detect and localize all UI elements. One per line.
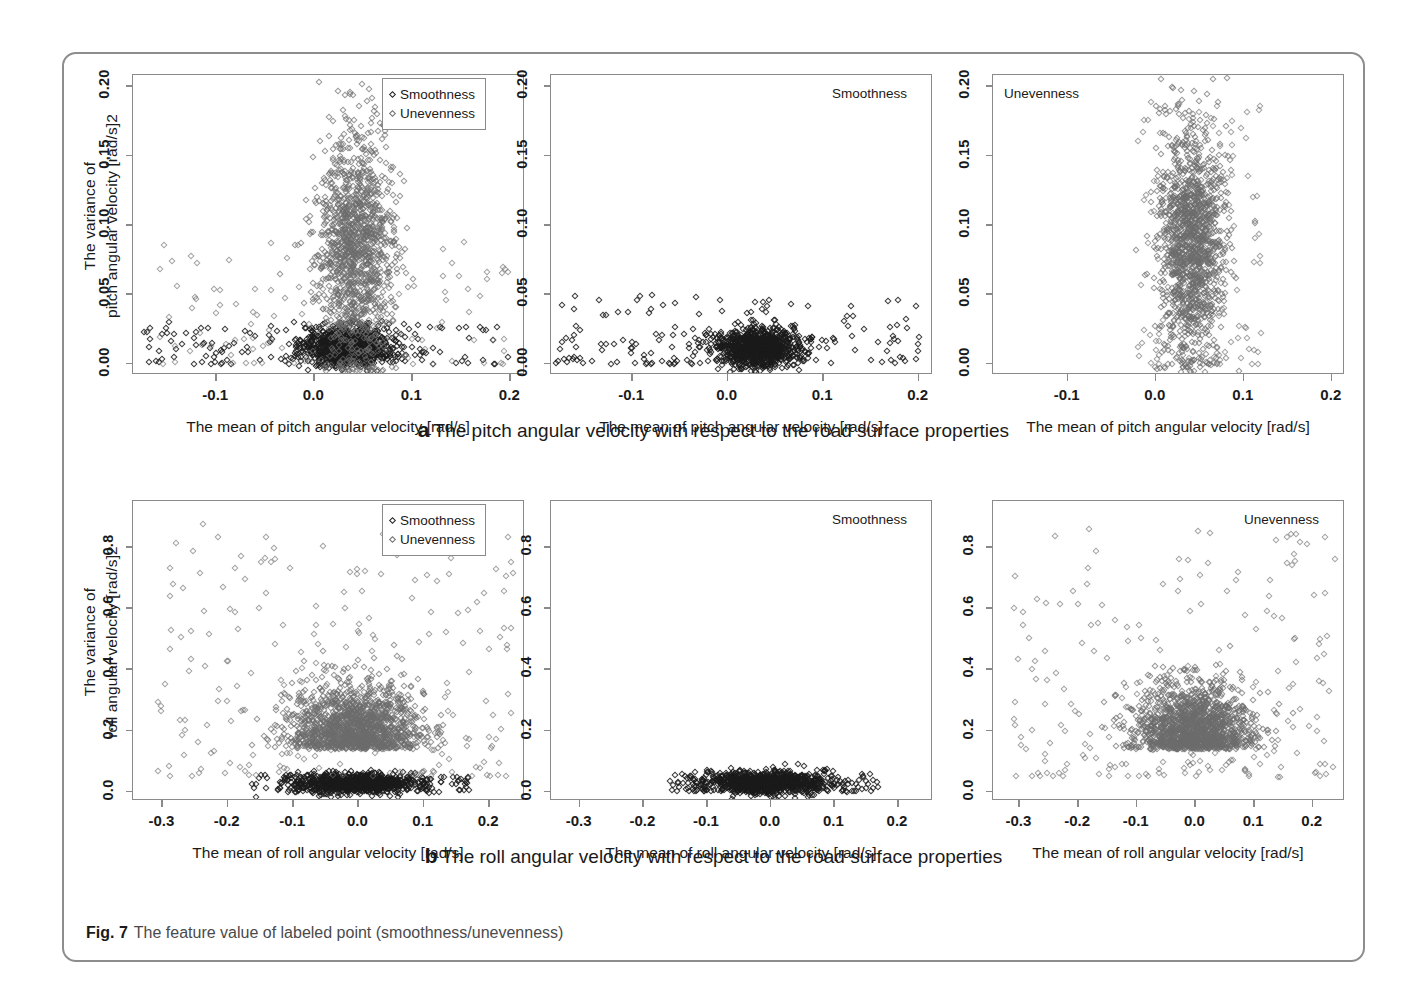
- data-point: [867, 356, 874, 363]
- data-point: [166, 593, 173, 600]
- data-point: [286, 565, 293, 572]
- data-point: [1157, 151, 1164, 158]
- data-point: [179, 585, 186, 592]
- data-point: [227, 717, 234, 724]
- y-tick-label: 0.8: [515, 537, 536, 553]
- data-point: [1245, 173, 1252, 180]
- data-point: [1081, 754, 1088, 761]
- data-point: [1233, 577, 1240, 584]
- data-point: [249, 751, 256, 758]
- data-point: [231, 609, 238, 616]
- panel-label: Unevenness: [1004, 86, 1079, 101]
- data-point: [914, 347, 921, 354]
- plot-area[interactable]: [550, 500, 932, 800]
- data-point: [166, 645, 173, 652]
- data-point: [787, 301, 794, 308]
- data-point: [1277, 764, 1284, 771]
- data-point: [367, 140, 374, 147]
- y-tick-label: 0.4: [957, 659, 978, 675]
- data-point: [1019, 621, 1026, 628]
- data-point: [356, 630, 363, 637]
- plot-area[interactable]: [550, 74, 932, 374]
- x-tick-mark: [313, 374, 315, 381]
- data-point: [247, 320, 254, 327]
- data-point: [1324, 633, 1331, 640]
- data-point: [1320, 738, 1327, 745]
- data-point: [161, 681, 168, 688]
- data-point: [287, 750, 294, 757]
- data-point: [245, 771, 252, 778]
- data-point: [227, 759, 234, 766]
- y-tick-labels: 0.000.050.100.150.20: [952, 74, 986, 374]
- figure-frame: The variance of pitch angular velocity […: [62, 52, 1365, 962]
- data-point: [421, 715, 428, 722]
- data-point: [181, 716, 188, 723]
- data-point: [1325, 687, 1332, 694]
- x-tick-mark: [1194, 800, 1196, 807]
- data-point: [1257, 689, 1264, 696]
- data-point: [704, 357, 711, 364]
- data-point: [290, 319, 297, 326]
- data-point: [202, 353, 209, 360]
- data-point: [1290, 680, 1297, 687]
- x-tick-mark: [423, 800, 425, 807]
- data-point: [648, 349, 655, 356]
- panel-label: Smoothness: [832, 86, 948, 101]
- data-point: [230, 359, 237, 366]
- data-point: [625, 308, 632, 315]
- data-point: [1242, 612, 1249, 619]
- data-point: [1111, 616, 1118, 623]
- data-point: [1284, 717, 1291, 724]
- data-point: [1264, 608, 1271, 615]
- data-point: [1141, 327, 1148, 334]
- data-point: [559, 302, 566, 309]
- data-point: [485, 734, 492, 741]
- data-point: [409, 360, 416, 367]
- data-point: [1094, 619, 1101, 626]
- data-point: [1156, 647, 1163, 654]
- data-point: [409, 594, 416, 601]
- x-tick-label: 0.1: [823, 812, 844, 829]
- data-point: [160, 242, 167, 249]
- data-point: [1083, 581, 1090, 588]
- data-point: [893, 321, 900, 328]
- data-point: [1243, 134, 1250, 141]
- data-point: [439, 245, 446, 252]
- data-point: [194, 739, 201, 746]
- data-point: [167, 626, 174, 633]
- y-tick-label: 0.8: [97, 537, 118, 553]
- data-point: [671, 771, 678, 778]
- data-point: [1087, 730, 1094, 737]
- data-point: [878, 359, 885, 366]
- data-point: [395, 290, 402, 297]
- x-tick-label: -0.1: [1054, 386, 1080, 403]
- plot-area[interactable]: [992, 74, 1344, 374]
- data-point: [1086, 745, 1093, 752]
- data-point: [321, 147, 328, 154]
- data-point: [341, 588, 348, 595]
- legend[interactable]: Smoothness Unevenness: [382, 504, 486, 556]
- y-tick-label: 0.05: [949, 284, 978, 300]
- data-point: [319, 647, 326, 654]
- data-point: [611, 340, 618, 347]
- data-point: [259, 359, 266, 366]
- data-point: [247, 669, 254, 676]
- data-point: [613, 359, 620, 366]
- data-point: [1313, 727, 1320, 734]
- data-point: [183, 329, 190, 336]
- data-point: [1028, 773, 1035, 780]
- data-point: [316, 137, 323, 144]
- data-point: [178, 341, 185, 348]
- x-tick-label: -0.1: [693, 812, 719, 829]
- data-point: [1256, 760, 1263, 767]
- data-point: [1330, 763, 1337, 770]
- data-point: [1278, 615, 1285, 622]
- legend[interactable]: Smoothness Unevenness: [382, 78, 486, 130]
- data-point: [369, 647, 376, 654]
- data-point: [1265, 592, 1272, 599]
- data-point: [439, 318, 446, 325]
- plot-area[interactable]: [992, 500, 1344, 800]
- data-point: [1133, 247, 1140, 254]
- data-point: [359, 588, 366, 595]
- data-point: [280, 621, 287, 628]
